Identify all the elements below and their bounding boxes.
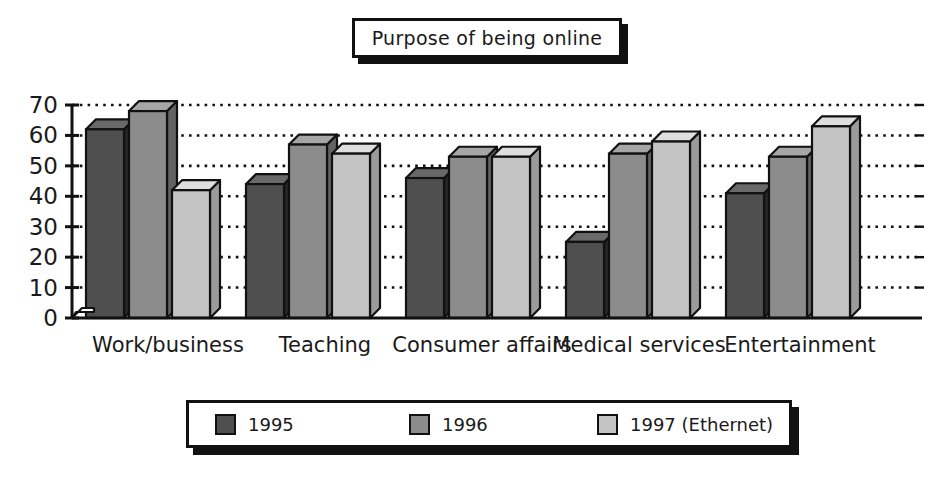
- bar-side-face: [850, 116, 860, 318]
- bar-top-face: [172, 180, 220, 190]
- bar-work-business-1997[interactable]: [172, 180, 220, 318]
- legend-swatch-icon: [215, 414, 236, 435]
- chart-legend-box: 1995 1996 1997 (Ethernet): [186, 400, 792, 448]
- chart-legend-container: 1995 1996 1997 (Ethernet): [186, 400, 792, 448]
- legend-item-label: 1995: [248, 414, 294, 435]
- legend-swatch-icon: [409, 414, 430, 435]
- y-axis-tick-label: 60: [29, 122, 58, 148]
- bar-front-face: [172, 190, 210, 318]
- bar-top-face: [492, 147, 540, 157]
- bar-medical-services-1996[interactable]: [609, 144, 657, 318]
- legend-item-label: 1996: [442, 414, 488, 435]
- legend-item-1996[interactable]: 1996: [409, 414, 488, 435]
- legend-item-1997-ethernet[interactable]: 1997 (Ethernet): [597, 414, 773, 435]
- legend-item-label: 1997 (Ethernet): [630, 414, 773, 435]
- bar-front-face: [406, 178, 444, 318]
- x-axis-category-label: Work/business: [92, 333, 244, 357]
- bar-top-face: [246, 174, 294, 184]
- bar-entertainment-1996[interactable]: [769, 147, 817, 318]
- bar-front-face: [492, 157, 530, 318]
- bar-work-business-1995[interactable]: [86, 119, 134, 318]
- x-axis-category-label: Teaching: [278, 333, 371, 357]
- bar-entertainment-1997[interactable]: [812, 116, 860, 318]
- bar-teaching-1996[interactable]: [289, 135, 337, 318]
- bar-front-face: [246, 184, 284, 318]
- bar-side-face: [690, 132, 700, 318]
- bar-top-face: [812, 116, 860, 126]
- bar-front-face: [726, 193, 764, 318]
- x-axis-category-label: Consumer affairs: [392, 333, 571, 357]
- bar-teaching-1995[interactable]: [246, 174, 294, 318]
- bar-side-face: [210, 180, 220, 318]
- bar-entertainment-1995[interactable]: [726, 183, 774, 318]
- bar-top-face: [449, 147, 497, 157]
- legend-swatch-icon: [597, 414, 618, 435]
- bar-front-face: [86, 129, 124, 318]
- x-axis-category-label: Medical services: [552, 333, 725, 357]
- bar-front-face: [812, 126, 850, 318]
- bar-top-face: [726, 183, 774, 193]
- y-axis-tick-label: 40: [29, 183, 58, 209]
- bar-top-face: [609, 144, 657, 154]
- bar-medical-services-1997[interactable]: [652, 132, 700, 318]
- bar-top-face: [406, 168, 454, 178]
- bar-front-face: [129, 111, 167, 318]
- bar-front-face: [332, 154, 370, 318]
- y-axis-tick-label: 20: [29, 244, 58, 270]
- bar-top-face: [566, 232, 614, 242]
- bar-top-face: [289, 135, 337, 145]
- bar-teaching-1997[interactable]: [332, 144, 380, 318]
- bar-front-face: [566, 242, 604, 318]
- legend-item-1995[interactable]: 1995: [215, 414, 294, 435]
- bar-front-face: [449, 157, 487, 318]
- bar-consumer-affairs-1995[interactable]: [406, 168, 454, 318]
- bar-front-face: [652, 142, 690, 318]
- y-axis-tick-label: 50: [29, 153, 58, 179]
- bar-consumer-affairs-1997[interactable]: [492, 147, 540, 318]
- bar-side-face: [370, 144, 380, 318]
- y-axis-tick-label: 30: [29, 214, 58, 240]
- y-axis-tick-label: 0: [43, 305, 58, 331]
- bar-consumer-affairs-1996[interactable]: [449, 147, 497, 318]
- bar-front-face: [289, 145, 327, 318]
- bar-front-face: [609, 154, 647, 318]
- bar-top-face: [86, 119, 134, 129]
- bar-top-face: [652, 132, 700, 142]
- bar-front-face: [769, 157, 807, 318]
- bar-medical-services-1995[interactable]: [566, 232, 614, 318]
- bar-top-face: [129, 101, 177, 111]
- x-axis-category-label: Entertainment: [724, 333, 876, 357]
- bar-side-face: [530, 147, 540, 318]
- bar-work-business-1996[interactable]: [129, 101, 177, 318]
- y-axis-tick-label: 70: [29, 92, 58, 118]
- y-axis-tick-label: 10: [29, 275, 58, 301]
- bar-top-face: [332, 144, 380, 154]
- bar-top-face: [769, 147, 817, 157]
